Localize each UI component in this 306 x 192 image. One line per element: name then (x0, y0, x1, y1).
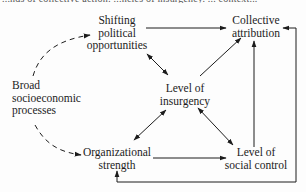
node-label-line: processes (12, 104, 81, 117)
node-political-opportunities: Shifting political opportunities (87, 14, 148, 52)
edge-insurgency-to-attribution (200, 38, 241, 76)
edge-opportunities-insurgency (147, 54, 168, 75)
node-social-control: Level of social control (225, 146, 287, 171)
node-organizational-strength: Organizational strength (83, 146, 151, 171)
edge-insurgency-social-control (198, 108, 233, 145)
edge-bottom-loop-to-organizational (117, 171, 296, 182)
node-label-line: Shifting (87, 14, 148, 27)
node-label-line: attribution (232, 27, 280, 40)
node-label-line: social control (225, 159, 287, 172)
node-collective-attribution: Collective attribution (232, 14, 280, 39)
node-label-line: socioeconomic (12, 92, 81, 105)
edge-organizational-insurgency (134, 110, 166, 140)
node-label-line: opportunities (87, 39, 148, 52)
edge-socioeconomic-to-opportunities (33, 35, 90, 76)
diagram-canvas: ...nds of collective action: ...ncies of… (0, 0, 306, 192)
node-level-of-insurgency: Level of insurgency (160, 82, 210, 107)
node-label-line: strength (83, 159, 151, 172)
node-label-line: political (87, 27, 148, 40)
node-label-line: Level of (160, 82, 210, 95)
node-label-line: Collective (232, 14, 280, 27)
node-label-line: Broad (12, 79, 81, 92)
node-socioeconomic-processes: Broad socioeconomic processes (12, 79, 81, 117)
node-label-line: insurgency (160, 95, 210, 108)
edge-socioeconomic-to-organizational (35, 125, 81, 155)
node-label-line: Organizational (83, 146, 151, 159)
node-label-line: Level of (225, 146, 287, 159)
